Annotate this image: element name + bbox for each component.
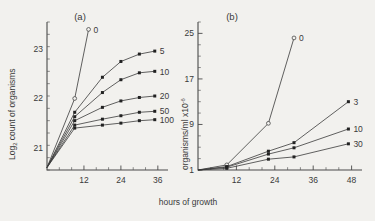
series-label-5: 5 (160, 46, 165, 56)
data-point (153, 50, 156, 53)
data-point (293, 155, 296, 158)
data-point-open (87, 28, 91, 32)
data-point (119, 99, 122, 102)
y-tick-label: 17 (185, 74, 195, 84)
series-label-30: 30 (353, 139, 363, 149)
panel-b-y-axis-title: organisms/ml x10-6 (180, 98, 190, 170)
series-label-0: 0 (299, 33, 304, 43)
figure-container: 1224362122230510205010012243648191725031… (0, 0, 375, 221)
x-tick-label: 36 (153, 175, 163, 185)
shared-x-axis-title: hours of growth (159, 197, 218, 207)
y-tick-label: 25 (185, 28, 195, 38)
panel-a: 12243621222305102050100 (34, 22, 175, 185)
x-tick-label: 36 (308, 175, 318, 185)
data-point (153, 70, 156, 73)
series-label-0: 0 (94, 25, 99, 35)
data-point (267, 153, 270, 156)
series-line-5 (47, 51, 155, 167)
data-point (119, 122, 122, 125)
data-point (138, 119, 141, 122)
data-point-open (292, 36, 296, 40)
series-line-0 (198, 38, 294, 170)
x-tick-label: 24 (116, 175, 126, 185)
y-tick-label: 1 (189, 165, 194, 175)
y-tick-label: 21 (34, 143, 44, 153)
data-point (73, 115, 76, 118)
data-point (101, 118, 104, 121)
series-line-3 (198, 102, 348, 170)
panel-label-b: (b) (226, 11, 238, 22)
data-point (138, 111, 141, 114)
series-label-10: 10 (160, 67, 170, 77)
data-point (101, 76, 104, 79)
series-line-0 (47, 29, 89, 167)
data-point (347, 142, 350, 145)
panel-b: 12243648191725031030 (185, 22, 364, 185)
data-point (73, 127, 76, 130)
data-point (225, 167, 228, 170)
data-point (153, 95, 156, 98)
series-label-3: 3 (353, 97, 358, 107)
data-point (138, 53, 141, 56)
panel-label-a: (a) (74, 11, 86, 22)
data-point (138, 71, 141, 74)
data-point (293, 141, 296, 144)
data-point-open (267, 121, 271, 125)
y-tick-label: 23 (34, 44, 44, 54)
data-point (73, 111, 76, 114)
data-point (347, 100, 350, 103)
y-tick-label: 22 (34, 93, 44, 103)
growth-curves-figure: 1224362122230510205010012243648191725031… (0, 0, 375, 221)
data-point (138, 96, 141, 99)
x-tick-label: 48 (347, 175, 357, 185)
data-point (267, 150, 270, 153)
x-tick-label: 12 (79, 175, 89, 185)
data-point (347, 128, 350, 131)
axis-lines (198, 22, 362, 170)
series-line-20 (47, 96, 155, 168)
panel-a-y-axis-title: Log2 count of organisms (7, 68, 18, 160)
x-tick-label: 24 (270, 175, 280, 185)
data-point (119, 78, 122, 81)
x-tick-label: 12 (232, 175, 242, 185)
series-label-10: 10 (353, 124, 363, 134)
data-point (73, 119, 76, 122)
data-point (153, 110, 156, 113)
data-point (153, 118, 156, 121)
data-point (101, 106, 104, 109)
data-point (101, 91, 104, 94)
data-point (73, 124, 76, 127)
data-point (119, 60, 122, 63)
data-point (101, 124, 104, 127)
data-point (293, 146, 296, 149)
series-label-20: 20 (160, 91, 170, 101)
y-tick-label: 9 (189, 119, 194, 129)
series-label-100: 100 (160, 115, 174, 125)
data-point-open (73, 97, 77, 101)
data-point (119, 114, 122, 117)
axis-lines (47, 22, 168, 170)
data-point (267, 158, 270, 161)
